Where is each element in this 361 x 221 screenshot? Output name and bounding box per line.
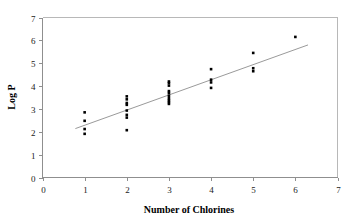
x-tick-label: 5 <box>251 185 256 195</box>
data-point <box>83 120 86 123</box>
data-point <box>210 78 213 81</box>
y-tick-label: 5 <box>31 59 36 69</box>
x-tick-label: 2 <box>125 185 130 195</box>
data-point <box>252 70 255 73</box>
x-tick-label: 4 <box>209 185 214 195</box>
y-tick-label: 2 <box>31 128 36 138</box>
data-point <box>125 98 128 101</box>
y-tick-label: 7 <box>31 14 36 24</box>
y-axis-title: Log P <box>6 84 17 109</box>
data-point <box>168 82 171 85</box>
chart-container: 01234567 01234567 Number of Chlorines Lo… <box>0 0 361 221</box>
data-point <box>168 84 171 87</box>
y-tick-label: 4 <box>31 82 36 92</box>
data-point <box>168 94 171 97</box>
data-point <box>125 116 128 119</box>
data-point <box>252 52 255 55</box>
data-point <box>125 114 128 117</box>
data-point <box>83 128 86 131</box>
data-point <box>125 95 128 98</box>
y-tick-label: 6 <box>31 36 36 46</box>
data-point <box>168 92 171 95</box>
y-tick-label: 3 <box>31 105 36 115</box>
x-tick-label: 6 <box>293 185 298 195</box>
data-point <box>83 133 86 136</box>
data-point <box>168 103 171 106</box>
x-tick-label: 1 <box>83 185 88 195</box>
chart-background <box>0 0 361 221</box>
data-point <box>210 68 213 71</box>
y-tick-label: 1 <box>31 151 36 161</box>
data-point <box>294 36 297 39</box>
x-tick-label: 7 <box>336 185 341 195</box>
x-tick-label: 3 <box>167 185 172 195</box>
scatter-plot: 01234567 01234567 Number of Chlorines Lo… <box>0 0 361 221</box>
data-point <box>83 111 86 114</box>
data-point <box>210 87 213 90</box>
y-tick-label: 0 <box>31 174 36 184</box>
data-point <box>210 81 213 84</box>
x-axis-title: Number of Chlorines <box>144 204 234 215</box>
x-tick-label: 0 <box>41 185 46 195</box>
data-point <box>125 104 128 107</box>
data-point <box>125 109 128 112</box>
data-point <box>252 67 255 70</box>
data-point <box>125 129 128 132</box>
